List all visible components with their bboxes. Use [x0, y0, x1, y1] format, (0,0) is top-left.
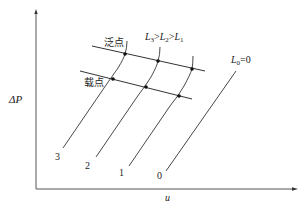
- y-axis-label: ΔP: [9, 94, 22, 105]
- liquid-rate-order-label: L3>L2>L1: [145, 32, 183, 44]
- flooding-line: [92, 46, 205, 71]
- curve-3: [63, 41, 127, 148]
- loading-point-1: [177, 94, 181, 98]
- flooding-point-2: [156, 59, 160, 63]
- dry-packing-label: L0=0: [231, 55, 251, 67]
- curve-label-1: 1: [119, 168, 124, 178]
- flooding-point-1: [190, 67, 194, 71]
- curve-2: [96, 47, 160, 157]
- y-axis: [34, 9, 37, 189]
- x-axis: [36, 187, 298, 190]
- curve-label-0-text: 0: [157, 170, 162, 181]
- l0-value: =0: [240, 54, 251, 65]
- loading-point-label: 载点: [84, 78, 104, 88]
- x-axis-arrow-icon: [292, 187, 298, 190]
- y-axis-label-text: ΔP: [9, 93, 22, 105]
- loading-points: [111, 77, 181, 98]
- loading-point-3: [111, 77, 115, 81]
- l1-subscript: 1: [180, 36, 184, 44]
- y-axis-arrow-icon: [34, 9, 37, 14]
- flooding-point-3: [123, 52, 127, 56]
- curve-1: [129, 56, 193, 166]
- curve-label-1-text: 1: [119, 167, 124, 178]
- curve-label-3-text: 3: [55, 151, 60, 162]
- loading-point-label-text: 载点: [84, 77, 104, 88]
- x-axis-label-text: u: [165, 192, 170, 203]
- x-axis-label: u: [165, 193, 170, 203]
- curve-label-3: 3: [55, 152, 60, 162]
- loading-point-2: [144, 85, 148, 89]
- curve-label-2: 2: [85, 161, 90, 171]
- curve-0: [166, 71, 236, 171]
- curve-label-2-text: 2: [85, 160, 90, 171]
- flooding-point-label: 泛点: [104, 38, 124, 48]
- curve-label-0: 0: [157, 171, 162, 181]
- flooding-point-label-text: 泛点: [104, 37, 124, 48]
